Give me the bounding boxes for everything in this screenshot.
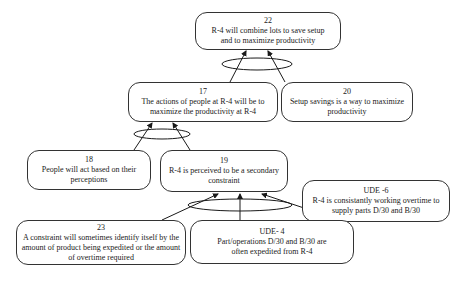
node-20-text: Setup savings is a way to maximize produ… xyxy=(286,97,408,117)
node-22-text: R-4 will combine lots to save setup and … xyxy=(208,26,328,46)
node-ude-4-number: UDE- 4 xyxy=(259,227,284,237)
node-17-number: 17 xyxy=(199,87,207,97)
edge-20-to-22 xyxy=(268,51,285,82)
node-23-text: A constraint will sometimes identify its… xyxy=(20,233,182,263)
node-23: 23 A constraint will sometimes identify … xyxy=(16,220,186,265)
node-23-number: 23 xyxy=(97,223,105,233)
node-ude-6-number: UDE -6 xyxy=(363,186,388,196)
edge-17-to-22 xyxy=(230,51,246,82)
node-19-text: R-4 is perceived to be a secondary const… xyxy=(165,166,283,186)
node-19: 19 R-4 is perceived to be a secondary co… xyxy=(160,150,288,192)
node-17-text: The actions of people at R-4 will be to … xyxy=(133,97,273,117)
node-ude-6-text: R-4 is consistantly working overtime to … xyxy=(306,196,446,216)
node-18-text: People will act based on their perceptio… xyxy=(39,165,139,185)
node-20: 20 Setup savings is a way to maximize pr… xyxy=(281,82,413,122)
node-18: 18 People will act based on their percep… xyxy=(27,150,151,190)
and-ellipse-22 xyxy=(222,58,292,70)
node-22-number: 22 xyxy=(264,16,272,26)
node-19-number: 19 xyxy=(220,156,228,166)
node-ude-4-text: Part/operations D/30 and B/30 are often … xyxy=(212,237,332,257)
node-20-number: 20 xyxy=(343,87,351,97)
node-17: 17 The actions of people at R-4 will be … xyxy=(128,82,278,122)
node-ude-4: UDE- 4 Part/operations D/30 and B/30 are… xyxy=(190,220,354,264)
node-22: 22 R-4 will combine lots to save setup a… xyxy=(195,12,341,50)
node-18-number: 18 xyxy=(85,155,93,165)
and-ellipse-17 xyxy=(134,129,190,139)
node-ude-6: UDE -6 R-4 is consistantly working overt… xyxy=(302,180,450,222)
